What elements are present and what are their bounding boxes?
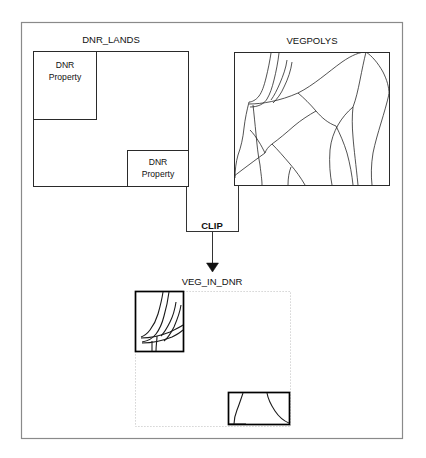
vegpolys-group: VEGPOLYS (224, 35, 397, 186)
veg-in-dnr-group: VEG_IN_DNR (136, 276, 291, 427)
dnr-property-lower-right-label-line2: Property (142, 169, 175, 179)
veg-in-dnr-piece-lower-right (229, 393, 290, 425)
dnr-property-upper-left-label-line1: DNR (56, 60, 75, 70)
veg-in-dnr-label: VEG_IN_DNR (182, 276, 243, 287)
dnr-property-upper-left-label-line2: Property (49, 72, 82, 82)
arrow-head (207, 263, 219, 272)
dnr-lands-label: DNR_LANDS (82, 34, 140, 45)
diagram-canvas: DNR_LANDS DNR Property DNR Property VEGP… (0, 0, 426, 458)
vegpolys-extent (235, 53, 390, 186)
dnr-lands-group: DNR_LANDS DNR Property DNR Property (34, 34, 189, 187)
clip-operation-diagram: DNR_LANDS DNR Property DNR Property VEGP… (0, 0, 426, 458)
vegpolys-label: VEGPOLYS (286, 35, 337, 46)
clip-operation-label: CLIP (201, 220, 223, 231)
dnr-property-lower-right-label-line1: DNR (149, 157, 168, 167)
veg-in-dnr-piece-upper-left (136, 292, 184, 352)
clip-output-arrow (207, 232, 219, 273)
